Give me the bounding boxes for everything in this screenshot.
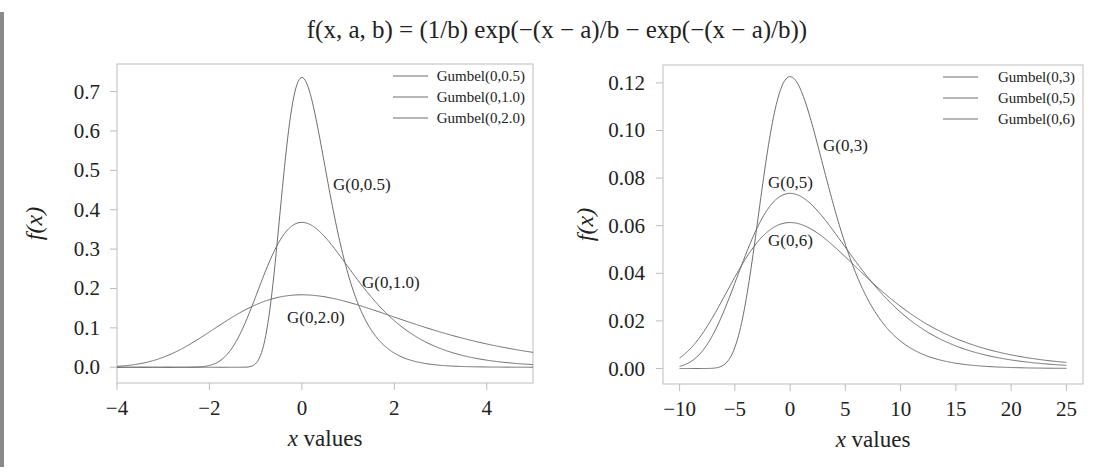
y-tick-label: 0.1 <box>74 316 100 340</box>
legend-label: Gumbel(0,0.5) <box>437 68 525 85</box>
x-tick-label: 10 <box>890 397 911 421</box>
legend-label: Gumbel(0,2.0) <box>437 110 525 127</box>
y-tick-label: 0.3 <box>74 237 100 261</box>
x-tick-label: 25 <box>1056 397 1077 421</box>
curve-annotation: G(0,2.0) <box>287 308 345 327</box>
x-axis-label: x values <box>287 426 363 451</box>
chart-right: 0.000.020.040.060.080.100.12−10−50510152… <box>557 0 1114 475</box>
y-tick-label: 0.08 <box>608 166 645 190</box>
x-tick-label: 15 <box>945 397 966 421</box>
curve-gumbel-0-6- <box>680 223 1067 363</box>
y-axis-label: f(x) <box>21 207 47 240</box>
y-tick-label: 0.7 <box>74 80 100 104</box>
x-tick-label: 5 <box>840 397 851 421</box>
curve-gumbel-0-1-0- <box>117 222 533 367</box>
legend-label: Gumbel(0,6) <box>998 111 1075 128</box>
x-tick-label: 0 <box>297 396 308 420</box>
y-tick-label: 0.6 <box>74 119 100 143</box>
x-tick-label: 4 <box>482 396 493 420</box>
y-tick-label: 0.12 <box>608 71 645 95</box>
y-tick-label: 0.0 <box>74 355 100 379</box>
x-tick-label: −2 <box>198 396 220 420</box>
curve-gumbel-0-2-0- <box>117 295 533 367</box>
legend-label: Gumbel(0,1.0) <box>437 89 525 106</box>
curve-annotation: G(0,1.0) <box>362 273 420 292</box>
curve-annotation: G(0,6) <box>768 231 813 250</box>
curve-annotation: G(0,3) <box>823 136 868 155</box>
y-tick-label: 0.00 <box>608 357 645 381</box>
legend-label: Gumbel(0,5) <box>998 90 1075 107</box>
y-tick-label: 0.02 <box>608 309 645 333</box>
curve-annotation: G(0,0.5) <box>333 175 391 194</box>
y-axis-label: f(x) <box>572 208 598 241</box>
y-tick-label: 0.04 <box>608 261 645 285</box>
y-tick-label: 0.06 <box>608 214 645 238</box>
y-tick-label: 0.4 <box>74 198 101 222</box>
x-tick-label: 0 <box>785 397 796 421</box>
x-tick-label: −4 <box>106 396 129 420</box>
x-tick-label: 20 <box>1001 397 1022 421</box>
x-axis-label: x values <box>835 427 911 452</box>
x-tick-label: −10 <box>663 397 696 421</box>
y-tick-label: 0.10 <box>608 118 645 142</box>
curve-annotation: G(0,5) <box>768 173 813 192</box>
x-tick-label: 2 <box>389 396 400 420</box>
y-tick-label: 0.5 <box>74 158 100 182</box>
x-tick-label: −5 <box>724 397 746 421</box>
y-tick-label: 0.2 <box>74 276 100 300</box>
legend-label: Gumbel(0,3) <box>998 69 1075 86</box>
chart-left: 0.00.10.20.30.40.50.60.7−4−2024x valuesf… <box>0 0 557 475</box>
